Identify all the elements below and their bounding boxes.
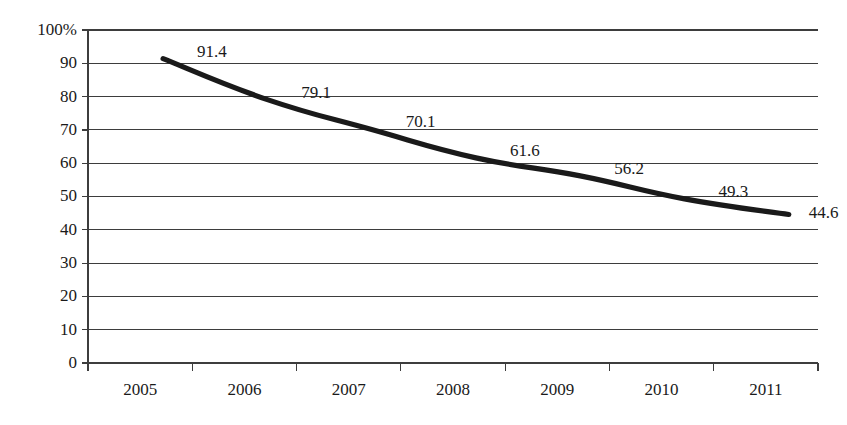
y-axis-label: 0 (69, 353, 78, 372)
y-axis-label: 100% (37, 20, 77, 39)
data-point-label: 44.6 (809, 203, 839, 222)
y-axis-label: 40 (60, 220, 77, 239)
data-point-label: 56.2 (614, 159, 644, 178)
x-axis-label: 2011 (749, 380, 782, 399)
y-axis-label: 80 (60, 87, 77, 106)
x-axis-label: 2005 (123, 380, 157, 399)
y-axis-label: 70 (60, 120, 77, 139)
x-axis-label: 2009 (540, 380, 574, 399)
y-axis-label: 10 (60, 320, 77, 339)
data-point-label: 61.6 (510, 141, 540, 160)
y-axis-label: 60 (60, 153, 77, 172)
data-point-label: 79.1 (301, 83, 331, 102)
data-point-label: 91.4 (197, 42, 227, 61)
x-axis-label: 2006 (227, 380, 261, 399)
line-chart: 100%9080706050403020100 2005200620072008… (0, 0, 847, 425)
y-axis-label: 30 (60, 253, 77, 272)
x-axis-label: 2008 (436, 380, 470, 399)
chart-page: 100%9080706050403020100 2005200620072008… (0, 0, 847, 425)
data-point-label: 70.1 (406, 112, 436, 131)
x-axis-label: 2010 (645, 380, 679, 399)
data-point-label: 49.3 (719, 182, 749, 201)
y-axis-label: 20 (60, 286, 77, 305)
x-axis-label: 2007 (332, 380, 367, 399)
y-axis-label: 90 (60, 53, 77, 72)
y-axis-label: 50 (60, 186, 77, 205)
